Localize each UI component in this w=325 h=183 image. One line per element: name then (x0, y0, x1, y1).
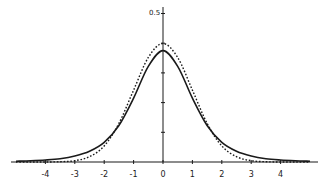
x-tick-label: -1 (130, 170, 138, 179)
x-tick-label: -3 (71, 170, 79, 179)
x-axis: -4-3-2-101234 (11, 160, 318, 179)
x-tick-label: 2 (219, 170, 224, 179)
x-tick-label: -2 (100, 170, 108, 179)
x-tick-label: 4 (278, 170, 283, 179)
y-axis: 0.5 (149, 7, 165, 162)
x-tick-label: 3 (249, 170, 254, 179)
x-tick-label: -4 (41, 170, 49, 179)
chart: -4-3-2-101234 0.5 (0, 0, 325, 183)
y-axis-top-label: 0.5 (149, 9, 160, 17)
x-tick-label: 0 (160, 170, 165, 179)
x-ticks: -4-3-2-101234 (41, 160, 283, 179)
x-tick-label: 1 (190, 170, 195, 179)
